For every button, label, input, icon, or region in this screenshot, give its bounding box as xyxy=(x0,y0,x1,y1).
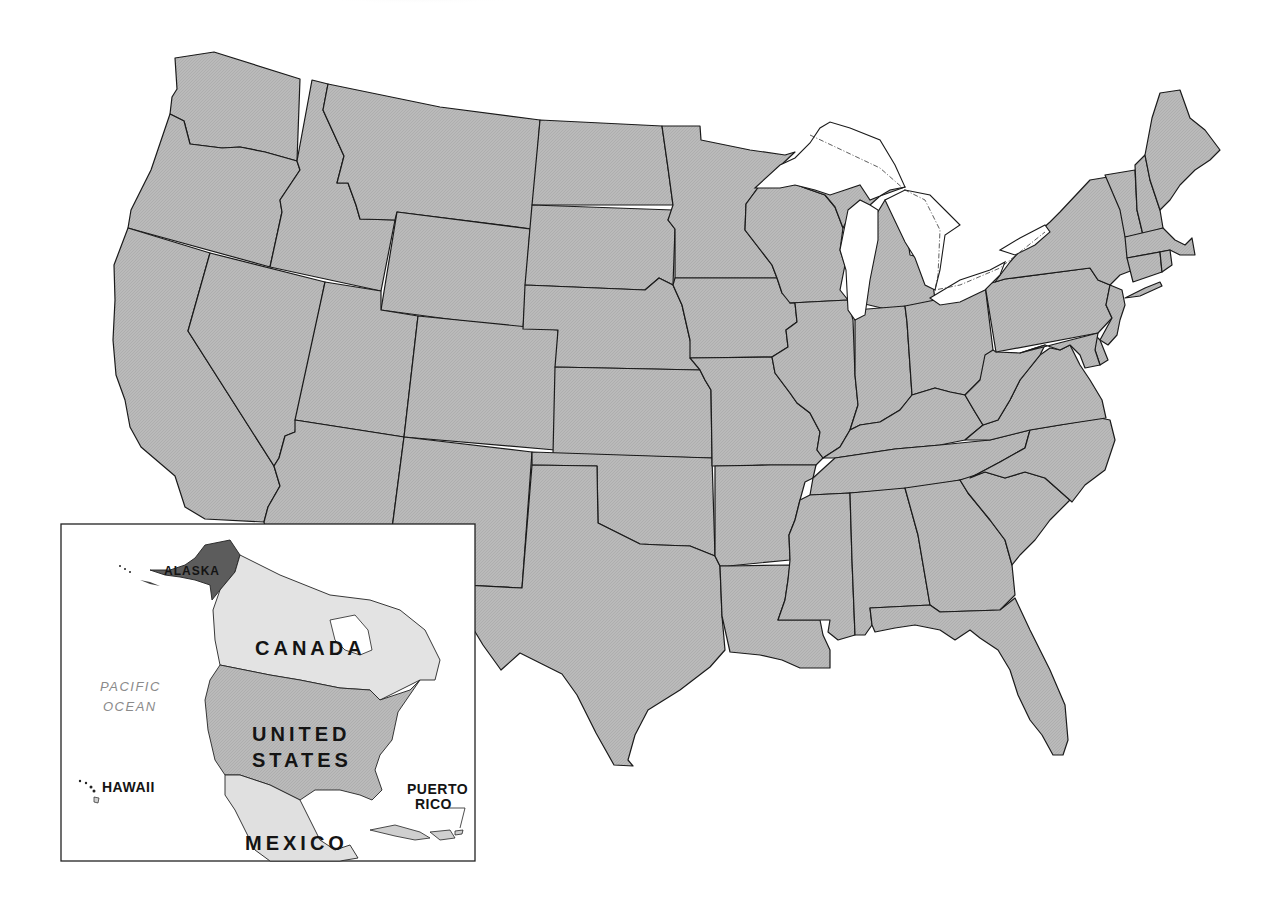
state-rhode-island[interactable] xyxy=(1160,250,1172,272)
state-kansas[interactable] xyxy=(553,367,712,458)
state-wyoming[interactable] xyxy=(381,212,530,329)
label-canada: CANADA xyxy=(255,638,366,658)
label-alaska: ALASKA xyxy=(164,565,220,577)
label-pacific-ocean-line1: PACIFIC xyxy=(100,678,161,697)
state-connecticut[interactable] xyxy=(1127,252,1162,282)
us-map xyxy=(0,0,1276,906)
label-puerto-rico-line2: RICO xyxy=(415,797,452,812)
state-north-dakota[interactable] xyxy=(532,120,673,205)
state-colorado[interactable] xyxy=(404,316,558,450)
label-united-states-line1: UNITED xyxy=(252,724,350,744)
state-maine[interactable] xyxy=(1145,90,1220,210)
label-mexico: MEXICO xyxy=(245,833,348,853)
state-florida[interactable] xyxy=(870,598,1068,755)
inset-puerto-rico xyxy=(455,830,463,835)
state-south-dakota[interactable] xyxy=(525,205,675,290)
label-united-states-line2: STATES xyxy=(252,750,352,770)
state-long-island[interactable] xyxy=(1125,282,1162,298)
label-pacific-ocean-line2: OCEAN xyxy=(103,698,157,717)
state-iowa[interactable] xyxy=(673,278,797,358)
label-hawaii: HAWAII xyxy=(102,780,155,795)
page-shadow xyxy=(280,0,560,22)
